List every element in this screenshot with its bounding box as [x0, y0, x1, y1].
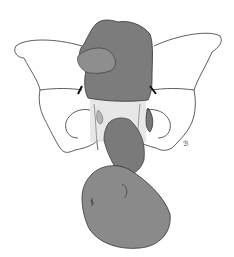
- artist-signature: ℬ: [183, 140, 189, 148]
- pelvis-fetus-drawing: [0, 0, 234, 257]
